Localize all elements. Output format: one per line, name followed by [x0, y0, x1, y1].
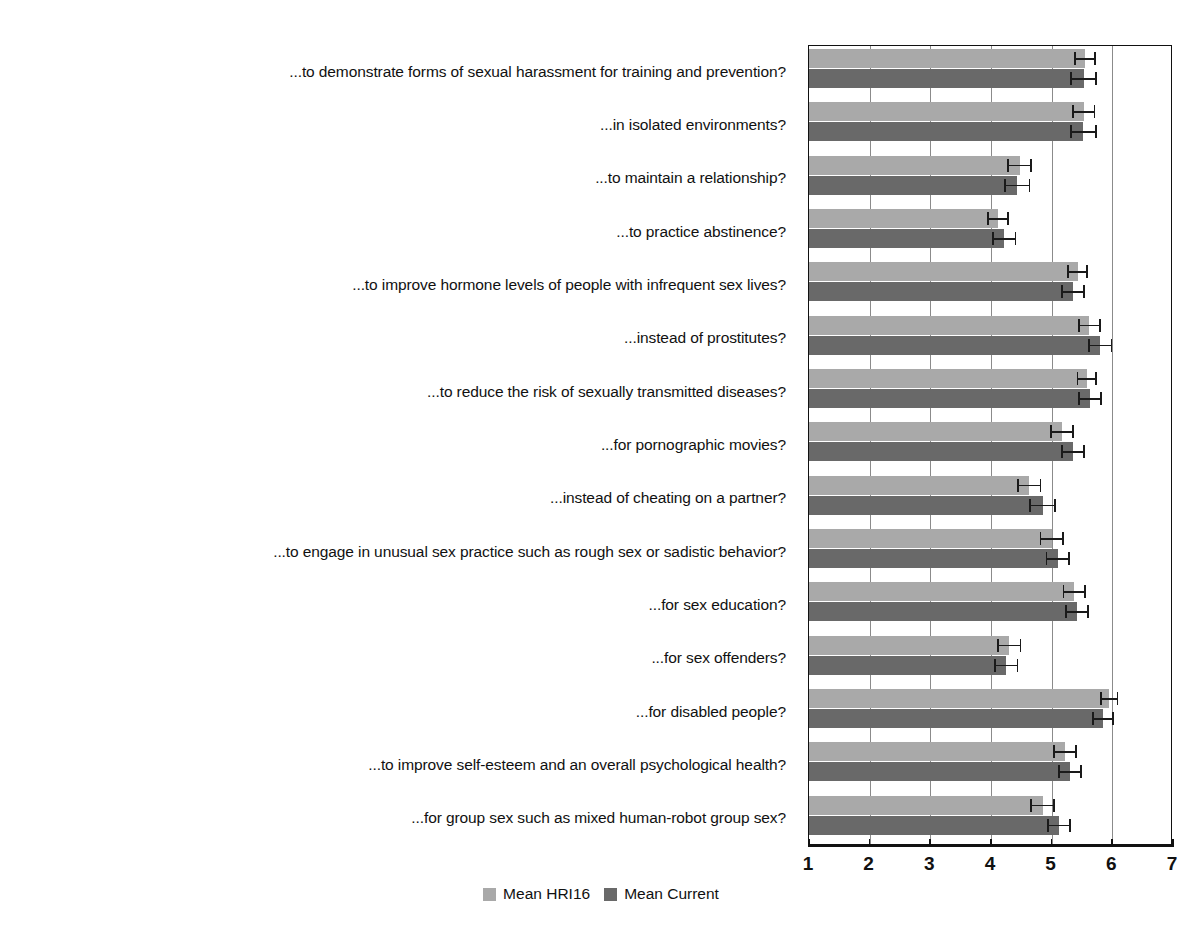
bar-group: [809, 739, 1173, 792]
error-bar: [1058, 762, 1082, 781]
error-bar-line: [1029, 505, 1056, 507]
error-bar-cap-right: [1087, 605, 1089, 618]
category-label: ...to reduce the risk of sexually transm…: [30, 383, 786, 400]
error-bar-cap-left: [1058, 765, 1060, 778]
error-bar-cap-left: [1072, 105, 1074, 118]
error-bar-cap-left: [1040, 532, 1042, 545]
error-bar-cap-right: [1112, 712, 1114, 725]
error-bar-cap-left: [1061, 445, 1063, 458]
bar-mean-current: [809, 816, 1059, 835]
error-bar-line: [1017, 485, 1041, 487]
error-bar-cap-left: [1092, 712, 1094, 725]
plot-area: [808, 45, 1172, 845]
bar-mean-hri16: [809, 636, 1009, 655]
error-bar: [1074, 49, 1096, 68]
error-bar-cap-right: [1053, 799, 1055, 812]
error-bar-cap-left: [1030, 799, 1032, 812]
category-label: ...in isolated environments?: [30, 116, 786, 133]
error-bar-cap-right: [1020, 639, 1022, 652]
error-bar-cap-left: [1029, 499, 1031, 512]
error-bar-cap-left: [1053, 745, 1055, 758]
bar-mean-hri16: [809, 369, 1087, 388]
x-tick-label: 3: [909, 853, 949, 875]
x-tick: [1172, 839, 1174, 847]
error-bar-line: [1088, 345, 1112, 347]
error-bar: [1047, 816, 1071, 835]
bar-group: [809, 473, 1173, 526]
bar-group: [809, 366, 1173, 419]
error-bar-line: [1004, 185, 1031, 187]
bar-mean-current: [809, 709, 1103, 728]
error-bar-line: [1030, 805, 1054, 807]
bar-group: [809, 579, 1173, 632]
error-bar-line: [1074, 58, 1096, 60]
error-bar: [1046, 549, 1070, 568]
error-bar: [1072, 102, 1095, 121]
error-bar: [1078, 316, 1101, 335]
error-bar-line: [1070, 131, 1097, 133]
error-bar-line: [1078, 398, 1102, 400]
error-bar: [1070, 122, 1097, 141]
error-bar: [1092, 709, 1114, 728]
category-label: ...to engage in unusual sex practice suc…: [30, 543, 786, 560]
legend-label: Mean HRI16: [503, 885, 590, 903]
error-bar-line: [1092, 718, 1114, 720]
error-bar-cap-right: [1080, 765, 1082, 778]
legend-entry: Mean HRI16: [483, 885, 590, 903]
x-tick-label: 4: [970, 853, 1010, 875]
error-bar: [1077, 369, 1098, 388]
error-bar-cap-left: [1047, 819, 1049, 832]
bar-mean-current: [809, 176, 1017, 195]
error-bar-cap-right: [1015, 232, 1017, 245]
error-bar: [1070, 69, 1097, 88]
error-bar-cap-right: [1072, 425, 1074, 438]
bar-mean-hri16: [809, 689, 1109, 708]
bar-mean-current: [809, 69, 1084, 88]
error-bar-line: [994, 665, 1018, 667]
error-bar: [1065, 602, 1089, 621]
bar-mean-hri16: [809, 156, 1020, 175]
error-bar: [992, 229, 1016, 248]
error-bar-cap-right: [1094, 105, 1096, 118]
bar-mean-hri16: [809, 422, 1062, 441]
error-bar: [1007, 156, 1031, 175]
error-bar-cap-left: [1088, 339, 1090, 352]
bar-mean-hri16: [809, 796, 1043, 815]
bar-mean-hri16: [809, 49, 1085, 68]
category-label: ...instead of prostitutes?: [30, 329, 786, 346]
error-bar-line: [1067, 271, 1088, 273]
bar-group: [809, 793, 1173, 846]
error-bar-cap-left: [1074, 52, 1076, 65]
x-tick: [808, 839, 810, 847]
bar-mean-current: [809, 656, 1006, 675]
error-bar-cap-right: [1117, 692, 1119, 705]
bar-mean-hri16: [809, 209, 998, 228]
error-bar-line: [1065, 611, 1089, 613]
bar-group: [809, 419, 1173, 472]
legend-label: Mean Current: [624, 885, 719, 903]
x-tick: [929, 839, 931, 847]
x-tick: [990, 839, 992, 847]
error-bar-cap-right: [1094, 52, 1096, 65]
error-bar-line: [1053, 751, 1076, 753]
error-bar: [997, 636, 1021, 655]
error-bar: [1078, 389, 1102, 408]
error-bar-cap-right: [1095, 72, 1097, 85]
bar-group: [809, 313, 1173, 366]
bar-group: [809, 526, 1173, 579]
error-bar-cap-left: [1070, 125, 1072, 138]
error-bar-line: [992, 238, 1016, 240]
bar-mean-hri16: [809, 476, 1029, 495]
x-tick-label: 7: [1152, 853, 1192, 875]
error-bar-cap-right: [1083, 285, 1085, 298]
category-label: ...to demonstrate forms of sexual harass…: [30, 63, 786, 80]
x-tick-label: 5: [1031, 853, 1071, 875]
legend-entry: Mean Current: [604, 885, 719, 903]
bar-mean-current: [809, 602, 1077, 621]
error-bar: [1061, 442, 1085, 461]
error-bar-cap-right: [1069, 819, 1071, 832]
error-bar: [1067, 262, 1088, 281]
error-bar-cap-right: [1030, 159, 1032, 172]
error-bar-cap-right: [1083, 445, 1085, 458]
error-bar-line: [1007, 165, 1031, 167]
